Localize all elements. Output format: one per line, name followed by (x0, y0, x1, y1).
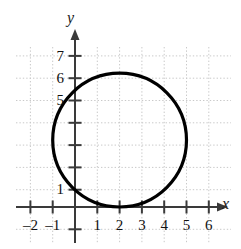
x-tick-label-5: 5 (177, 218, 197, 233)
coordinate-plane-figure: y x –2 –1 1 2 3 4 5 6 7 6 5 1 (0, 0, 241, 249)
x-axis-label: x (222, 196, 229, 212)
y-axis-label: y (67, 10, 74, 26)
x-tick-label-2: 2 (110, 218, 130, 233)
x-tick-label-1: 1 (87, 218, 107, 233)
y-axis-arrowhead-icon (71, 29, 80, 40)
y-tick-label-6: 6 (46, 71, 64, 86)
x-tick-label-neg2: –2 (20, 218, 40, 233)
x-tick-label-4: 4 (154, 218, 174, 233)
x-tick-label-3: 3 (132, 218, 152, 233)
y-tick-label-5: 5 (46, 93, 64, 108)
y-tick-label-1: 1 (46, 182, 64, 197)
x-tick-label-6: 6 (199, 218, 219, 233)
y-tick-label-7: 7 (46, 49, 64, 64)
graph-canvas (0, 0, 241, 249)
x-tick-label-neg1: –1 (43, 218, 63, 233)
